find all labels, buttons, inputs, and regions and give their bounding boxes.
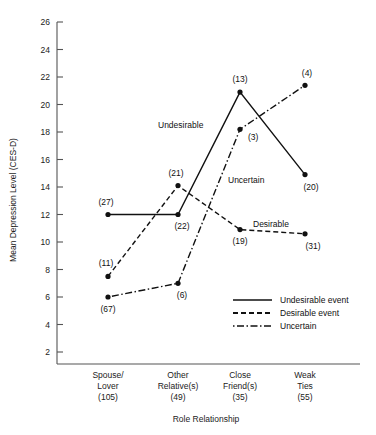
y-tick-22: 22 (41, 72, 51, 82)
data-point-label: (67) (100, 304, 115, 314)
data-point (237, 127, 242, 132)
x-cat-2-line1: Close (229, 370, 251, 380)
series-line-0 (108, 92, 305, 214)
y-axis-ticks (57, 22, 63, 352)
legend-label-2: Uncertain (280, 321, 317, 331)
x-category-weak-ties: Weak Ties (55) (294, 370, 316, 402)
y-tick-6: 6 (45, 292, 50, 302)
x-axis-tick-labels: Spouse/ Lover (105) Other Relative(s) (4… (92, 370, 316, 402)
y-tick-8: 8 (45, 265, 50, 275)
x-category-spouse-lover: Spouse/ Lover (105) (92, 370, 124, 402)
data-point (175, 212, 180, 217)
y-tick-16: 16 (41, 155, 51, 165)
data-point (175, 183, 180, 188)
y-tick-18: 18 (41, 127, 51, 137)
data-point (105, 212, 110, 217)
y-tick-14: 14 (41, 182, 51, 192)
data-point (302, 83, 307, 88)
data-point (105, 274, 110, 279)
data-point-label: (19) (232, 236, 247, 246)
x-axis: Spouse/ Lover (105) Other Relative(s) (4… (57, 364, 360, 424)
data-point-label: (4) (302, 68, 313, 78)
data-point-label: (20) (303, 182, 318, 192)
x-cat-3-line1: Weak (294, 370, 316, 380)
x-cat-0-line2: Lover (97, 381, 118, 391)
y-tick-2: 2 (45, 347, 50, 357)
data-point-label: (21) (168, 168, 183, 178)
inline-label-undesirable: Undesirable (158, 120, 204, 130)
chart-container: 26 24 22 20 18 16 14 12 10 8 6 4 2 Mean … (0, 0, 376, 435)
inline-label-uncertain: Uncertain (228, 175, 265, 185)
legend-item-uncertain[interactable]: Uncertain (233, 321, 317, 331)
x-cat-3-count: (55) (297, 392, 312, 402)
x-cat-2-line2: Friend(s) (223, 381, 257, 391)
data-point-label: (22) (174, 221, 189, 231)
legend-label-1: Desirable event (280, 308, 340, 318)
x-cat-2-count: (35) (232, 392, 247, 402)
y-tick-4: 4 (45, 320, 50, 330)
x-category-other-relatives: Other Relative(s) (49) (158, 370, 199, 402)
x-cat-0-line1: Spouse/ (92, 370, 124, 380)
x-cat-1-line1: Other (167, 370, 188, 380)
y-axis: 26 24 22 20 18 16 14 12 10 8 6 4 2 Mean … (8, 17, 63, 364)
data-point (105, 294, 110, 299)
y-tick-12: 12 (41, 210, 51, 220)
y-axis-tick-labels: 26 24 22 20 18 16 14 12 10 8 6 4 2 (41, 17, 51, 357)
x-cat-0-count: (105) (98, 392, 118, 402)
series-line-2 (108, 85, 305, 297)
legend: Undesirable event Desirable event Uncert… (233, 295, 349, 331)
inline-label-desirable: Desirable (253, 219, 289, 229)
legend-label-0: Undesirable event (280, 295, 349, 305)
legend-item-undesirable-event[interactable]: Undesirable event (233, 295, 349, 305)
data-point (237, 227, 242, 232)
x-cat-1-line2: Relative(s) (158, 381, 199, 391)
data-point (302, 172, 307, 177)
data-point-label: (3) (248, 132, 259, 142)
data-point-label: (6) (177, 290, 188, 300)
x-cat-3-line2: Ties (297, 381, 313, 391)
y-tick-10: 10 (41, 237, 51, 247)
y-tick-20: 20 (41, 100, 51, 110)
series-layer: (27)(22)(13)(20)(11)(21)(19)(31)(67)(6)(… (98, 68, 320, 314)
data-point (302, 231, 307, 236)
data-point-label: (31) (305, 241, 320, 251)
series-uncertain: (67)(6)(3)(4) (100, 68, 312, 314)
x-cat-1-count: (49) (170, 392, 185, 402)
data-point (237, 90, 242, 95)
data-point-label: (13) (232, 74, 247, 84)
x-category-close-friends: Close Friend(s) (35) (223, 370, 257, 402)
data-point-label: (11) (99, 258, 114, 268)
legend-item-desirable-event[interactable]: Desirable event (233, 308, 340, 318)
x-axis-title: Role Relationship (173, 414, 240, 424)
series-line-1 (108, 186, 305, 277)
data-point (175, 281, 180, 286)
y-axis-title: Mean Depression Level (CES-D) (8, 138, 18, 262)
data-point-label: (27) (98, 197, 113, 207)
line-chart: 26 24 22 20 18 16 14 12 10 8 6 4 2 Mean … (0, 0, 376, 435)
y-tick-26: 26 (41, 17, 51, 27)
y-tick-24: 24 (41, 45, 51, 55)
